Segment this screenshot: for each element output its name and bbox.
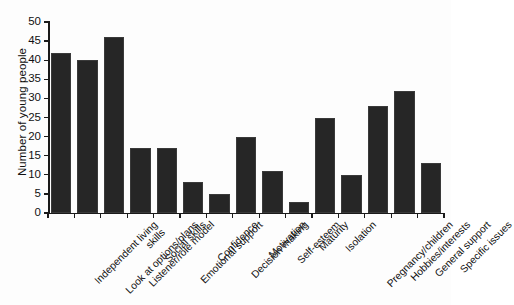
bar	[51, 53, 72, 213]
x-axis-tick	[127, 214, 128, 218]
y-axis-tick	[44, 79, 49, 80]
y-axis-tick	[44, 174, 49, 175]
x-axis-tick	[232, 214, 233, 218]
plot-area	[48, 22, 444, 213]
bar	[183, 182, 204, 213]
y-axis-tick	[44, 98, 49, 99]
x-axis-tick	[153, 214, 154, 218]
bar	[262, 171, 283, 213]
x-axis-tick	[391, 214, 392, 218]
bar	[289, 202, 310, 213]
y-axis-tick	[44, 60, 49, 61]
y-axis-tick-labels: 05101520253035404550	[0, 0, 41, 305]
x-axis-tick	[311, 214, 312, 218]
x-axis-tick	[364, 214, 365, 218]
x-axis-tick	[179, 214, 180, 218]
bar	[341, 175, 362, 213]
y-axis-tick-label: 5	[1, 188, 41, 200]
bar	[421, 163, 442, 213]
bar	[394, 91, 415, 213]
y-axis-tick-label: 25	[1, 112, 41, 124]
y-axis-tick-label: 20	[1, 131, 41, 143]
bar	[130, 148, 151, 213]
y-axis-tick	[44, 117, 49, 118]
y-axis-tick-label: 50	[1, 16, 41, 28]
y-axis-tick-label: 35	[1, 73, 41, 85]
x-axis-tick	[285, 214, 286, 218]
x-axis-tick	[206, 214, 207, 218]
x-axis-tick	[259, 214, 260, 218]
x-axis-tick	[443, 214, 444, 218]
x-axis-tick	[338, 214, 339, 218]
y-axis-tick	[44, 136, 49, 137]
y-axis-tick	[44, 21, 49, 22]
x-axis-tick	[100, 214, 101, 218]
y-axis-tick-label: 40	[1, 54, 41, 66]
x-axis-tick	[47, 214, 48, 218]
y-axis-tick	[44, 212, 49, 213]
y-axis-tick-label: 30	[1, 92, 41, 104]
bar	[104, 37, 125, 213]
bar	[236, 137, 257, 213]
x-axis-category-label: Confidence	[215, 219, 260, 264]
bar	[368, 106, 389, 213]
bar	[315, 118, 336, 214]
x-axis-tick	[417, 214, 418, 218]
y-axis-tick	[44, 193, 49, 194]
bar	[77, 60, 98, 213]
x-axis-tick	[74, 214, 75, 218]
bar	[209, 194, 230, 213]
y-axis-tick	[44, 155, 49, 156]
y-axis-tick	[44, 40, 49, 41]
y-axis-tick-label: 45	[1, 35, 41, 47]
bar	[157, 148, 178, 213]
y-axis-tick-label: 15	[1, 150, 41, 162]
y-axis-tick-label: 10	[1, 169, 41, 181]
y-axis-tick-label: 0	[1, 207, 41, 219]
